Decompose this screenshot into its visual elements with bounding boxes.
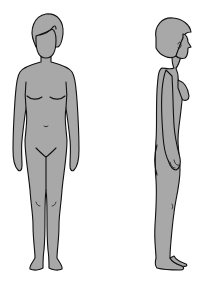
side-view-figure (155, 18, 191, 270)
front-view-figure (13, 14, 79, 270)
body-illustration (0, 0, 207, 286)
figure-svg (0, 0, 207, 286)
